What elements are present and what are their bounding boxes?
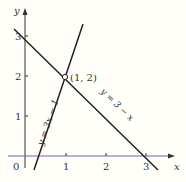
x-axis-arrow-icon <box>168 154 175 159</box>
line-y-3x-minus-1 <box>34 24 83 170</box>
line1-label: y = 3x − 1 <box>35 98 60 148</box>
intersection-point <box>62 74 67 79</box>
x-label-3: 3 <box>143 161 149 172</box>
graph: 0 1 2 3 1 2 3 y x (1, 2) y = 3x − 1 y = … <box>0 0 186 182</box>
y-axis-label: y <box>13 5 20 16</box>
y-axis-arrow-icon <box>23 8 28 15</box>
line-y-3-minus-x <box>14 29 158 170</box>
x-label-1: 1 <box>63 161 69 172</box>
x-axis-label: x <box>174 161 180 172</box>
y-label-3: 3 <box>15 31 21 42</box>
y-label-1: 1 <box>15 111 21 122</box>
point-label: (1, 2) <box>70 72 97 83</box>
origin-label: 0 <box>13 161 19 172</box>
y-label-2: 2 <box>15 71 21 82</box>
x-label-2: 2 <box>103 161 109 172</box>
